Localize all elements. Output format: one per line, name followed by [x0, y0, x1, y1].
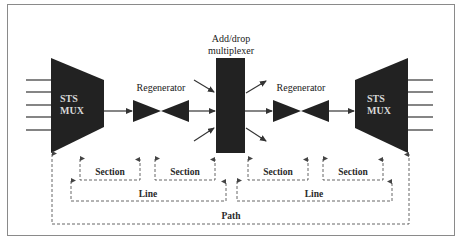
- adm-block: [216, 58, 245, 153]
- regenerator-label: Regenerator: [137, 82, 187, 93]
- mux-label-mux: MUX: [367, 105, 392, 116]
- line-label: Line: [139, 189, 157, 199]
- section-label: Section: [170, 167, 200, 177]
- path-label: Path: [222, 211, 242, 221]
- mux-label-sts: STS: [367, 93, 385, 104]
- section-label: Section: [263, 167, 293, 177]
- mux-label-sts: STS: [60, 93, 78, 104]
- mux-label-mux: MUX: [60, 105, 85, 116]
- section-label: Section: [338, 167, 368, 177]
- adm-label-line1: Add/drop: [212, 33, 250, 44]
- sonet-diagram: STS MUX Regenerator Add/drop multiplexer…: [0, 0, 460, 242]
- line-label: Line: [305, 189, 323, 199]
- adm-label-line2: multiplexer: [208, 45, 255, 56]
- section-label: Section: [95, 167, 125, 177]
- regenerator-label: Regenerator: [277, 82, 327, 93]
